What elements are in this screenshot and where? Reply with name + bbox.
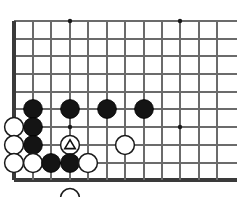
black-stone-body — [98, 100, 117, 119]
black-stone-c1-r7 — [24, 136, 43, 155]
white-stone-c1-r8 — [24, 154, 43, 173]
black-stone-c3-r8 — [61, 154, 80, 173]
black-stone-body — [24, 136, 43, 155]
white-stone-body — [116, 136, 135, 155]
white-stone-body — [5, 118, 24, 137]
black-stone-body — [42, 154, 61, 173]
go-board-diagram — [0, 0, 237, 197]
white-stone-captured-below-edge — [61, 189, 80, 197]
white-stone-c4-r8 — [79, 154, 98, 173]
black-stone-body — [61, 100, 80, 119]
white-stone-body — [5, 154, 24, 173]
white-stone-body — [79, 154, 98, 173]
white-stone-c0-r8 — [5, 154, 24, 173]
white-stone-c6-r7 — [116, 136, 135, 155]
white-stone-marked-c3-r7 — [61, 136, 80, 155]
black-stone-c3-r5 — [61, 100, 80, 119]
black-stone-c5-r5 — [98, 100, 117, 119]
black-stone-body — [135, 100, 154, 119]
stone-layer — [0, 0, 237, 197]
black-stone-c1-r6 — [24, 118, 43, 137]
black-stone-c7-r5 — [135, 100, 154, 119]
white-stone-c0-r6 — [5, 118, 24, 137]
white-stone-body — [61, 189, 80, 197]
white-stone-c0-r7 — [5, 136, 24, 155]
black-stone-body — [24, 118, 43, 137]
white-stone-body — [5, 136, 24, 155]
black-stone-c1-r5 — [24, 100, 43, 119]
black-stone-body — [61, 154, 80, 173]
white-stone-body — [24, 154, 43, 173]
black-stone-body — [24, 100, 43, 119]
black-stone-c2-r8 — [42, 154, 61, 173]
